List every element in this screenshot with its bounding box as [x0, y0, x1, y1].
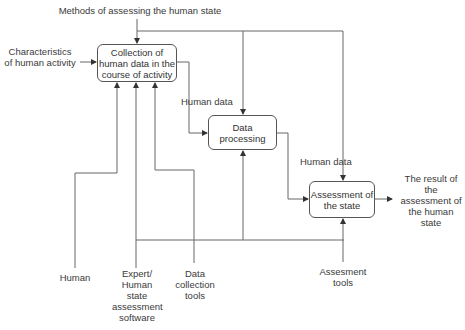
- process-label-collection: Collection of human data in the course o…: [98, 47, 176, 80]
- mechanism-arrow-tools: [155, 83, 194, 263]
- mechanism-label-assess-tools: Assesment tools: [315, 266, 371, 288]
- flow-label-human-data-1: Human data: [181, 96, 241, 107]
- mechanism-label-human: Human: [55, 272, 95, 283]
- control-label-methods: Methods of assessing the human state: [55, 5, 225, 16]
- output-label-result: The result of the assessment of the huma…: [400, 173, 462, 228]
- flow-label-human-data-2: Human data: [300, 156, 360, 167]
- process-box-processing[interactable]: Data processing: [208, 115, 277, 150]
- process-label-assessment: Assessment of the state: [310, 189, 374, 211]
- process-box-collection[interactable]: Collection of human data in the course o…: [97, 44, 177, 82]
- input-label-characteristics: Characteristics of human activity: [4, 46, 76, 68]
- process-box-assessment[interactable]: Assessment of the state: [309, 181, 375, 218]
- mechanism-label-tools: Data collection tools: [172, 268, 218, 301]
- process-label-processing: Data processing: [209, 122, 276, 144]
- mechanism-label-expert: Expert/ Human state assessment software: [112, 268, 162, 323]
- mechanism-arrow-human: [75, 83, 117, 268]
